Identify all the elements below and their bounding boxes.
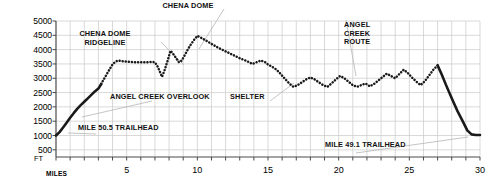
y-tick-label: 1000 [33,131,52,141]
y-tick-label: 1500 [33,116,52,126]
x-axis-tick-labels: 51015202530 [56,165,480,181]
y-tick-label: 2000 [33,102,52,112]
y-tick-label: 3000 [33,73,52,83]
annotation-mile-50-5-trailhead: MILE 50.5 TRAILHEAD [78,124,218,133]
y-axis-tick-labels: 500100015002000250030003500400045005000 [0,21,52,157]
y-tick-label: 5000 [33,16,52,26]
x-tick-label: 30 [475,165,485,175]
x-axis-title: MILES [46,170,67,177]
y-axis-title: FT [34,154,43,163]
annotation-shelter: SHELTER [230,93,300,102]
x-tick-label: 15 [263,165,273,175]
x-tick-label: 25 [404,165,414,175]
y-tick-label: 4500 [33,30,52,40]
annotation-angel-creek-route: ANGEL CREEK ROUTE [344,21,400,47]
elevation-profile-chart: 500100015002000250030003500400045005000 … [0,0,496,191]
x-tick-label: 10 [192,165,202,175]
y-tick-label: 3500 [33,59,52,69]
y-tick-label: 2500 [33,88,52,98]
annotation-mile-49-1-trailhead: MILE 49.1 TRAILHEAD [325,141,465,150]
annotation-chena-dome-ridgeline: CHENA DOME RIDGELINE [55,30,155,47]
x-tick-label: 5 [124,165,129,175]
annotation-chena-dome: CHENA DOME [134,2,242,11]
x-tick-label: 20 [334,165,344,175]
y-tick-label: 4000 [33,45,52,55]
